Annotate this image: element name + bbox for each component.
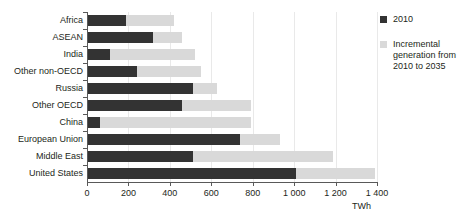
x-axis-unit-label: TWh (352, 201, 371, 211)
x-axis-tick (211, 182, 212, 186)
x-axis-label: 1 400 (366, 188, 389, 198)
x-axis-line (87, 182, 378, 183)
bar-row (87, 15, 174, 26)
x-axis-tick (87, 182, 88, 186)
x-axis-label: 800 (245, 188, 260, 198)
x-axis-label: 200 (121, 188, 136, 198)
y-axis-tick (83, 12, 87, 13)
y-axis-tick (83, 131, 87, 132)
x-axis-tick (253, 182, 254, 186)
y-axis-label: Africa (1, 15, 83, 26)
y-axis-tick (83, 29, 87, 30)
bar-segment-2010 (87, 49, 110, 60)
legend-label-incremental: Incremental generation from 2010 to 2035 (393, 39, 472, 72)
chart-legend: 2010 Incremental generation from 2010 to… (380, 14, 472, 86)
x-axis-label: 1 200 (324, 188, 347, 198)
x-axis-label: 400 (162, 188, 177, 198)
y-axis-label: China (1, 117, 83, 128)
bar-segment-incremental (100, 117, 250, 128)
bar-segment-incremental (153, 32, 182, 43)
bar-row (87, 32, 182, 43)
legend-item-2010: 2010 (380, 14, 472, 25)
y-axis-label: Middle East (1, 151, 83, 162)
y-axis-tick (83, 148, 87, 149)
bar-segment-incremental (193, 151, 334, 162)
y-axis-label: India (1, 49, 83, 60)
y-axis-label: United States (1, 168, 83, 179)
bar-row (87, 83, 217, 94)
bar-segment-incremental (240, 134, 279, 145)
chart-title (96, 0, 246, 2)
y-axis-tick (83, 165, 87, 166)
bar-segment-incremental (126, 15, 174, 26)
bar-segment-2010 (87, 168, 296, 179)
bar-segment-incremental (296, 168, 375, 179)
gridline (336, 12, 337, 182)
bar-row (87, 168, 375, 179)
gridline (377, 12, 378, 182)
bar-row (87, 134, 280, 145)
x-axis-tick (294, 182, 295, 186)
bar-row (87, 117, 251, 128)
bar-segment-incremental (182, 100, 250, 111)
x-axis-tick (170, 182, 171, 186)
bar-row (87, 151, 333, 162)
bar-segment-incremental (110, 49, 195, 60)
legend-swatch-icon-incremental (380, 41, 387, 48)
legend-label-2010: 2010 (393, 14, 413, 25)
y-axis-tick (83, 97, 87, 98)
y-axis-tick (83, 46, 87, 47)
bar-segment-2010 (87, 32, 153, 43)
y-axis-tick (83, 63, 87, 64)
bar-segment-2010 (87, 83, 193, 94)
bar-row (87, 100, 251, 111)
y-axis-label: Russia (1, 83, 83, 94)
legend-swatch-icon-2010 (380, 16, 387, 23)
x-axis-label: 600 (204, 188, 219, 198)
y-axis-labels: AfricaASEANIndiaOther non-OECDRussiaOthe… (0, 12, 83, 182)
y-axis-tick (83, 80, 87, 81)
y-axis-label: European Union (1, 134, 83, 145)
bar-segment-2010 (87, 15, 126, 26)
x-axis-label: 1 000 (283, 188, 306, 198)
x-axis-tick (377, 182, 378, 186)
x-axis-label: 0 (84, 188, 89, 198)
bar-row (87, 66, 201, 77)
legend-item-incremental: Incremental generation from 2010 to 2035 (380, 39, 472, 72)
x-axis-tick (128, 182, 129, 186)
bar-segment-2010 (87, 66, 137, 77)
x-axis-tick (336, 182, 337, 186)
bar-segment-2010 (87, 117, 100, 128)
y-axis-tick (83, 114, 87, 115)
bar-segment-2010 (87, 134, 240, 145)
bar-segment-2010 (87, 100, 182, 111)
bar-segment-incremental (137, 66, 201, 77)
bar-segment-2010 (87, 151, 193, 162)
y-axis-line (87, 12, 88, 182)
bar-segment-incremental (193, 83, 218, 94)
y-axis-label: Other OECD (1, 100, 83, 111)
chart-container: AfricaASEANIndiaOther non-OECDRussiaOthe… (0, 0, 472, 217)
bar-row (87, 49, 195, 60)
y-axis-label: ASEAN (1, 32, 83, 43)
plot-area (87, 12, 377, 182)
y-axis-label: Other non-OECD (1, 66, 83, 77)
